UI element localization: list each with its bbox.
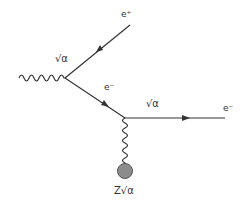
label-nucleus-coupling: Z√α — [114, 185, 134, 196]
photon-exchange — [123, 118, 128, 164]
feynman-diagram: e⁺ √α e⁻ √α e⁻ Z√α — [0, 0, 241, 204]
label-coupling-top: √α — [55, 53, 68, 64]
electron-internal-arrow — [101, 100, 109, 107]
label-positron: e⁺ — [121, 9, 132, 19]
label-coupling-bottom: √α — [146, 98, 159, 109]
nucleus — [118, 164, 133, 179]
positron-arrow — [96, 45, 103, 52]
photon-incoming — [19, 75, 65, 81]
label-electron-out: e⁻ — [223, 103, 234, 113]
electron-out-arrow — [182, 115, 190, 121]
electron-internal-line — [65, 78, 125, 118]
label-electron-internal: e⁻ — [104, 82, 115, 92]
